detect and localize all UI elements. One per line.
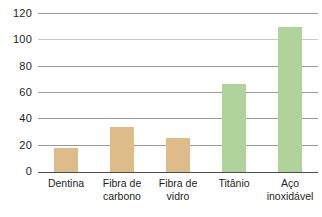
x-label-line: Dentina	[38, 177, 94, 190]
y-tick-label-0: 0	[0, 166, 32, 177]
x-label-line: Fibra de	[150, 177, 206, 190]
bar-aço-inoxidável	[278, 27, 302, 172]
x-label-line: Aço	[262, 177, 318, 190]
bar-fibra-de-carbono	[110, 127, 134, 172]
y-tick-label-120: 120	[0, 8, 32, 19]
y-tick-label-80: 80	[0, 61, 32, 72]
bar-slot	[206, 14, 262, 172]
x-label-line: Fibra de	[94, 177, 150, 190]
y-tick-label-100: 100	[0, 34, 32, 45]
bar-chart: 020406080100120 DentinaFibra decarbonoFi…	[0, 0, 322, 217]
x-label-aço-inoxidável: Açoinoxidável	[262, 177, 318, 202]
bar-slot	[150, 14, 206, 172]
x-label-titânio: Titânio	[206, 177, 262, 190]
x-label-line: inoxidável	[262, 190, 318, 203]
plot-area	[38, 14, 318, 172]
x-label-line: Titânio	[206, 177, 262, 190]
y-tick-label-60: 60	[0, 87, 32, 98]
x-axis-category-labels: DentinaFibra decarbonoFibra devidroTitân…	[38, 177, 318, 217]
bar-dentina	[54, 148, 78, 172]
bar-slot	[262, 14, 318, 172]
y-tick-label-40: 40	[0, 113, 32, 124]
bar-slot	[94, 14, 150, 172]
bar-slot	[38, 14, 94, 172]
x-label-fibra-de-carbono: Fibra decarbono	[94, 177, 150, 202]
bar-titânio	[222, 84, 246, 172]
y-tick-label-20: 20	[0, 140, 32, 151]
x-label-line: carbono	[94, 190, 150, 203]
x-label-dentina: Dentina	[38, 177, 94, 190]
x-label-line: vidro	[150, 190, 206, 203]
bar-series	[38, 14, 318, 172]
bar-fibra-de-vidro	[166, 138, 190, 172]
x-label-fibra-de-vidro: Fibra devidro	[150, 177, 206, 202]
